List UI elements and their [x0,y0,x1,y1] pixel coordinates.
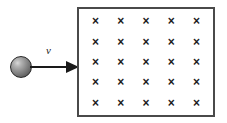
field-x-icon: × [133,31,158,51]
field-x-icon: × [83,31,108,51]
field-x-icon: × [108,11,133,31]
field-x-icon: × [108,52,133,72]
field-x-icon: × [159,52,184,72]
field-x-icon: × [159,11,184,31]
field-x-icon: × [83,11,108,31]
physics-diagram: v × × × × × × × × × × × × × × × × × × × … [0,0,227,123]
velocity-arrow-shaft [30,66,70,68]
field-x-icon: × [159,31,184,51]
field-x-icon: × [184,31,209,51]
field-x-icon: × [159,72,184,92]
field-x-icon: × [83,93,108,113]
velocity-label: v [46,45,51,56]
particle-sphere [10,56,32,78]
field-x-icon: × [108,31,133,51]
field-x-icon: × [83,72,108,92]
field-x-icon: × [83,52,108,72]
field-symbol-grid: × × × × × × × × × × × × × × × × × × × × … [79,9,213,115]
field-x-icon: × [108,93,133,113]
field-x-icon: × [133,11,158,31]
field-x-icon: × [184,52,209,72]
field-x-icon: × [108,72,133,92]
field-x-icon: × [133,52,158,72]
field-x-icon: × [133,93,158,113]
field-x-icon: × [184,72,209,92]
magnetic-field-region: × × × × × × × × × × × × × × × × × × × × … [77,7,215,117]
field-x-icon: × [133,72,158,92]
field-x-icon: × [184,11,209,31]
field-x-icon: × [184,93,209,113]
field-x-icon: × [159,93,184,113]
